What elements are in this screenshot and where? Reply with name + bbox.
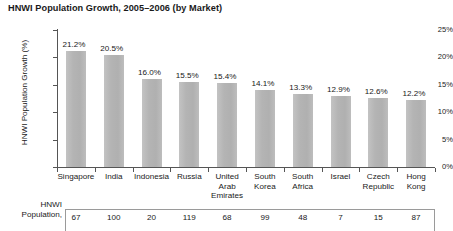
x-axis-label-line: Israel — [331, 172, 351, 181]
x-axis-label-line: Indonesia — [134, 172, 169, 181]
table-row-label-line: Population, — [21, 210, 62, 219]
table-cell: 87 — [397, 213, 435, 223]
bar — [66, 51, 86, 167]
bar — [255, 90, 275, 167]
x-axis-label-line: United — [215, 172, 238, 181]
x-axis-category-label: CzechRepublic — [357, 172, 399, 191]
table-cell: 15 — [359, 213, 397, 223]
x-axis-label-line: Singapore — [57, 172, 94, 181]
bar — [104, 55, 124, 167]
x-axis-label-line: Emirates — [211, 191, 243, 200]
y-axis-line — [57, 29, 58, 168]
table-row-label: HNWIPopulation, — [6, 200, 62, 219]
x-axis-label-line: Kong — [407, 182, 426, 191]
x-axis-label-line: Africa — [292, 182, 313, 191]
table-cell: 100 — [95, 213, 133, 223]
bar-value-label: 12.2% — [392, 89, 436, 98]
x-axis-label-line: Republic — [363, 182, 395, 191]
table-cell: 48 — [284, 213, 322, 223]
bar — [217, 83, 237, 167]
y-axis-tick-label: 20% — [407, 53, 453, 61]
bar — [331, 96, 351, 167]
x-axis-category-label: Russia — [168, 172, 210, 182]
x-axis-category-label: Indonesia — [131, 172, 173, 182]
page-title: HNWI Population Growth, 2005–2006 (by Ma… — [8, 3, 222, 13]
table-cell: 119 — [170, 213, 208, 223]
y-axis-title: HNWI Population Growth (%) — [20, 30, 29, 156]
table-cell: 99 — [246, 213, 284, 223]
y-axis-tick-mark — [53, 85, 58, 86]
y-axis-tick-mark — [53, 30, 58, 31]
table-cell: 7 — [322, 213, 360, 223]
x-axis-category-label: SouthAfrica — [282, 172, 324, 191]
bar-value-label: 20.5% — [90, 44, 134, 53]
table-cell: 67 — [57, 213, 95, 223]
x-axis-label-line: Hong — [406, 172, 425, 181]
x-axis-label-line: Russia — [177, 172, 202, 181]
x-axis-label-line: South — [254, 172, 275, 181]
x-axis-label-line: South — [292, 172, 313, 181]
table-cell: 68 — [208, 213, 246, 223]
x-axis-category-label: SouthKorea — [244, 172, 286, 191]
bar — [179, 82, 199, 167]
x-axis-category-label: India — [93, 172, 135, 182]
table-row-label-line: HNWI — [40, 200, 62, 209]
table-cell: 20 — [133, 213, 171, 223]
y-axis-tick-mark — [53, 112, 58, 113]
chart-figure: HNWI Population Growth, 2005–2006 (by Ma… — [0, 0, 453, 231]
y-axis-tick-label: 25% — [407, 26, 453, 34]
bar — [406, 100, 426, 167]
bar — [368, 98, 388, 167]
x-axis-label-line: Arab — [219, 182, 236, 191]
x-axis-category-label: UnitedArabEmirates — [206, 172, 248, 201]
x-axis-label-line: India — [105, 172, 123, 181]
x-axis-label-line: Czech — [367, 172, 390, 181]
y-axis-tick-mark — [53, 57, 58, 58]
y-axis-tick-mark — [53, 140, 58, 141]
x-axis-category-label: Israel — [320, 172, 362, 182]
x-axis-category-label: HongKong — [395, 172, 437, 191]
bar — [293, 94, 313, 167]
bar — [142, 79, 162, 167]
x-axis-category-label: Singapore — [55, 172, 97, 182]
y-axis-tick-label: 15% — [407, 81, 453, 89]
x-axis-label-line: Korea — [254, 182, 276, 191]
